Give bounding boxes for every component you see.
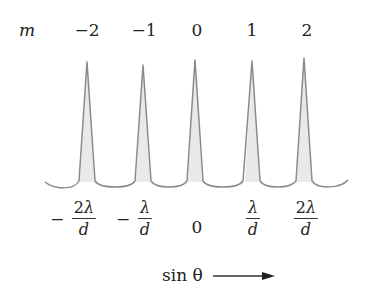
position-label-0: 0 [192,219,203,236]
denominator-d: d [248,219,258,238]
denominator-d: d [301,219,311,238]
denominator-d: d [140,219,150,238]
numerator-lambda: λ [248,198,258,217]
axis-arrowhead-icon [262,272,275,280]
numerator-lambda: λ [84,198,94,217]
numerator-lambda: λ [306,198,316,217]
numerator-coeff: 2 [296,198,306,217]
denominator-d: d [79,219,89,238]
position-label-1: λ d [246,200,260,238]
axis-label-sin-theta: sin θ [162,267,203,284]
numerator-lambda: λ [140,198,150,217]
position-sign-minus2: − [50,211,64,228]
position-label-minus2: 2λ d [72,200,96,238]
numerator-coeff: 2 [74,198,84,217]
intensity-curve [0,0,365,297]
position-label-2: 2λ d [294,200,318,238]
position-sign-minus1: − [116,211,130,228]
position-label-minus1: λ d [138,200,152,238]
